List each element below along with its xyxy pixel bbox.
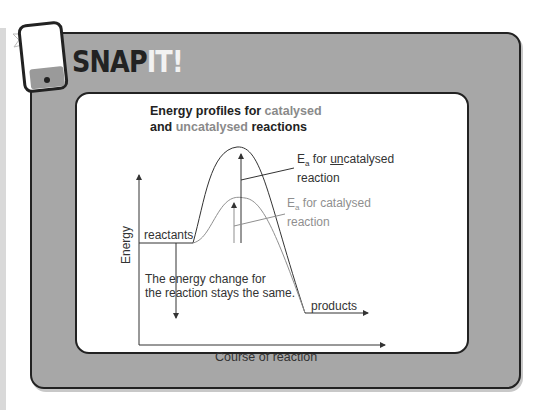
energy-change-note: The energy change forthe reaction stays … (145, 272, 295, 300)
reactants-label: reactants (144, 228, 193, 242)
ea-catalysed-label: Ea for catalysedreaction (287, 196, 371, 229)
energy-profile-chart: Energy (0, 0, 537, 410)
x-axis-label: Course of reaction (215, 350, 317, 364)
ea-uncatalysed-label: Ea for uncatalysedreaction (297, 152, 394, 185)
y-axis-label: Energy (119, 226, 133, 264)
products-label: products (311, 299, 357, 313)
